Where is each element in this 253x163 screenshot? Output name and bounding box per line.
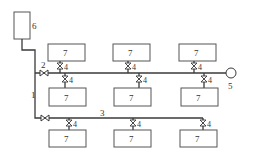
main-valve — [40, 70, 48, 76]
valve-label: 4 — [64, 63, 68, 72]
unit-label: 7 — [128, 48, 133, 58]
valve-label: 4 — [143, 76, 147, 85]
branch-valve — [125, 63, 131, 69]
row-upper-below: 4 7 4 7 4 7 — [49, 73, 218, 106]
end-unit-label: 5 — [228, 81, 233, 91]
unit-label: 7 — [129, 134, 134, 144]
row-upper-above: 7 4 7 4 7 4 — [48, 44, 216, 73]
valve-label: 4 — [137, 120, 141, 129]
row-lower-below: 4 7 4 7 4 7 — [49, 118, 217, 147]
lower-line-label: 3 — [100, 108, 105, 118]
branch-valve — [130, 120, 136, 126]
unit-label: 7 — [63, 48, 68, 58]
valve-label: 4 — [69, 76, 73, 85]
main-valve-label: 2 — [41, 60, 46, 70]
lower-valve — [41, 115, 49, 121]
branch-valve — [200, 120, 206, 126]
branch-valve — [66, 120, 72, 126]
valve-label: 4 — [198, 63, 202, 72]
branch-valve — [57, 63, 63, 69]
valve-label: 4 — [207, 120, 211, 129]
piping-diagram: 6 1 2 5 3 7 4 7 4 7 4 4 7 — [0, 0, 253, 163]
branch-valve — [191, 63, 197, 69]
valve-label: 4 — [132, 63, 136, 72]
end-unit — [226, 68, 236, 78]
tank-label: 6 — [32, 21, 37, 31]
tank — [14, 12, 30, 39]
branch-valve — [201, 76, 207, 82]
branch-valve — [62, 76, 68, 82]
branch-valve — [136, 76, 142, 82]
riser-label: 1 — [31, 90, 36, 100]
valve-label: 4 — [73, 120, 77, 129]
valve-label: 4 — [208, 76, 212, 85]
unit-label: 7 — [64, 93, 69, 103]
unit-label: 7 — [196, 93, 201, 103]
unit-label: 7 — [194, 48, 199, 58]
unit-label: 7 — [64, 134, 69, 144]
riser-pipe — [22, 39, 43, 118]
unit-label: 7 — [129, 93, 134, 103]
unit-label: 7 — [195, 134, 200, 144]
